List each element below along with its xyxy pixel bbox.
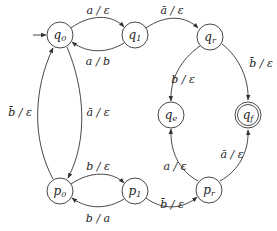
edge-label-p0-p1: b / ε <box>86 160 110 173</box>
state-sub-qe: e <box>172 114 177 123</box>
edge-label-q0-p0: ā / ε <box>86 106 109 119</box>
edge-label-pr-qe: a / ε <box>163 160 186 173</box>
edge-label-qr-qe: b / ε <box>171 73 195 86</box>
state-diagram: a / ε a / b ā / ε b / ε b̄ / ε ā / ε b̄ … <box>0 0 277 231</box>
edge-label-q1-q0: a / b <box>86 55 110 68</box>
state-sub-p1: 1 <box>136 190 141 199</box>
state-qf-accepting: qf <box>235 102 261 128</box>
state-sub-q0: 0 <box>61 34 66 43</box>
edge-label-pr-qf: ā / ε <box>220 148 243 161</box>
edge-p0-q0 <box>38 48 53 179</box>
edge-q1-qr <box>146 18 198 28</box>
edge-p0-p1 <box>71 174 124 184</box>
edge-label-p1-pr: b̄ / ε <box>160 198 184 211</box>
edge-label-qr-qf: b̄ / ε <box>249 57 273 70</box>
state-qe: qe <box>158 102 184 128</box>
edge-label-p0-q0: b̄ / ε <box>8 106 32 119</box>
state-q0: q0 <box>47 22 73 48</box>
edge-q0-p0 <box>67 47 82 178</box>
state-qr: qr <box>197 24 223 50</box>
edge-pr-qe <box>171 129 198 181</box>
state-pr: pr <box>196 177 222 203</box>
state-sub-q1: 1 <box>136 34 141 43</box>
state-sub-p0: 0 <box>61 190 66 199</box>
state-q1: q1 <box>122 22 148 48</box>
edge-q1-q0 <box>72 42 124 51</box>
edge-label-p1-p0: b / a <box>86 212 110 225</box>
edge-q0-q1 <box>71 17 124 28</box>
state-p0: p0 <box>47 178 73 204</box>
edge-p1-p0 <box>72 198 124 207</box>
edge-qr-qf <box>222 44 248 100</box>
edge-label-q0-q1: a / ε <box>86 4 109 17</box>
state-p1: p1 <box>122 178 148 204</box>
edge-label-q1-qr: ā / ε <box>160 4 183 17</box>
